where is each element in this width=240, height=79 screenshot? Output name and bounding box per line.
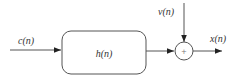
noise-signal: v(n) [158, 3, 184, 42]
input-signal: c(n) [10, 35, 61, 50]
summing-junction: + [175, 42, 193, 60]
block-diagram: c(n) h(n) v(n) + x(n) [0, 0, 240, 79]
input-label: c(n) [18, 35, 35, 47]
output-label: x(n) [209, 33, 227, 45]
system-block-label: h(n) [96, 48, 113, 60]
output-signal: x(n) [193, 33, 227, 51]
system-block: h(n) [62, 31, 146, 74]
plus-icon: + [181, 48, 187, 56]
noise-label: v(n) [158, 6, 175, 18]
